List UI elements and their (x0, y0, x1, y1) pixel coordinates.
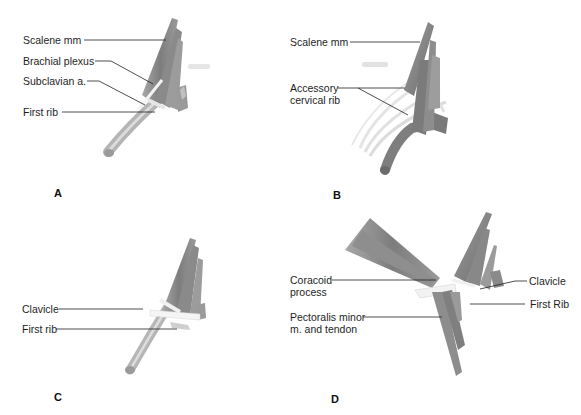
panel-d-drawing (345, 212, 504, 376)
label-first-rib-d: First Rib (530, 298, 569, 310)
panel-c-drawing (125, 238, 206, 374)
label-first-rib-c: First rib (22, 323, 57, 335)
panel-b-drawing (352, 22, 448, 174)
panel-letter-a: A (54, 187, 62, 199)
label-clavicle-c: Clavicle (22, 303, 59, 315)
label-accessory-cervical-rib: Accessory cervical rib (290, 82, 352, 106)
panel-letter-d: D (331, 393, 339, 405)
panel-a-drawing (104, 18, 188, 157)
label-clavicle-d: Clavicle (529, 275, 566, 287)
label-subclavian-artery: Subclavian a. (23, 75, 86, 87)
label-scalene-mm-a: Scalene mm (23, 34, 81, 46)
label-brachial-plexus: Brachial plexus (23, 55, 94, 67)
label-scalene-mm-b: Scalene mm (290, 36, 348, 48)
panel-letter-c: C (54, 391, 62, 403)
label-coracoid-process: Coracoid process (290, 274, 340, 298)
label-pectoralis-minor: Pectoralis minor m. and tendon (290, 311, 376, 335)
label-first-rib-a: First rib (23, 106, 58, 118)
panel-letter-b: B (333, 189, 341, 201)
